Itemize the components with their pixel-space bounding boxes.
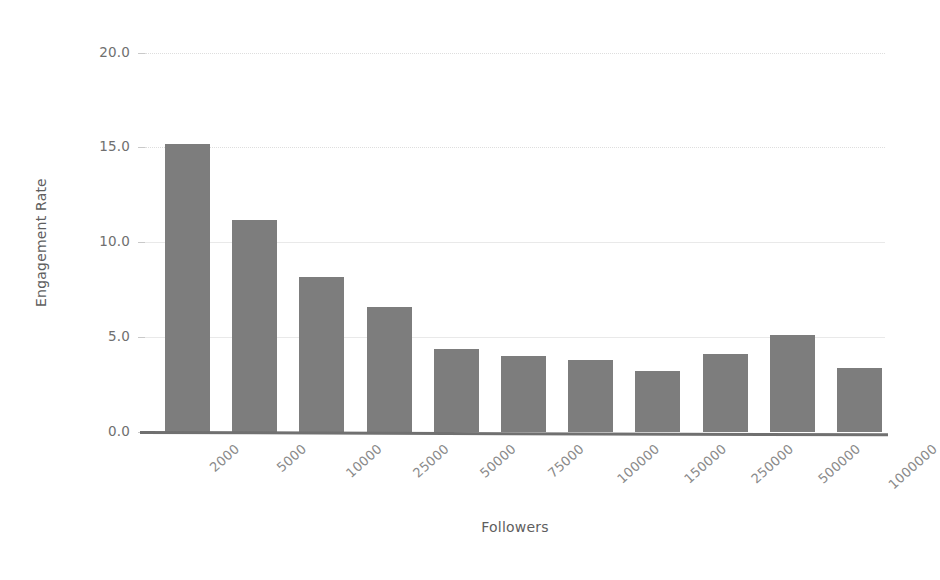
x-tick-label: 500000 [816, 441, 864, 487]
x-tick-label: 75000 [545, 441, 587, 481]
bar[interactable] [501, 356, 546, 432]
y-axis-title: Engagement Rate [33, 53, 53, 432]
bar[interactable] [367, 307, 412, 432]
bar[interactable] [434, 349, 479, 432]
x-axis-title: Followers [145, 519, 885, 535]
bar[interactable] [635, 371, 680, 432]
bar[interactable] [568, 360, 613, 432]
y-tick-label: 20.0 [70, 46, 130, 60]
bar[interactable] [165, 144, 210, 432]
x-tick-label: 250000 [748, 441, 796, 487]
x-tick-label: 100000 [614, 441, 662, 487]
plot-area [145, 53, 885, 432]
x-tick-label: 50000 [477, 441, 519, 481]
x-tick-label: 5000 [273, 441, 309, 475]
x-tick-label: 150000 [681, 441, 729, 487]
x-tick-label: 10000 [343, 441, 385, 481]
gridline-20 [145, 53, 885, 55]
bar[interactable] [837, 368, 882, 432]
gridline-15 [145, 147, 885, 149]
bar[interactable] [770, 335, 815, 432]
x-tick-label: 25000 [410, 441, 452, 481]
x-tick-label: 1000000 [885, 441, 940, 492]
y-tick-label: 15.0 [70, 140, 130, 154]
y-tick-label: 10.0 [70, 235, 130, 249]
y-tick-label: 0.0 [70, 425, 130, 439]
bar[interactable] [299, 277, 344, 432]
x-tick-label: 2000 [206, 441, 242, 475]
y-tick-label: 5.0 [70, 330, 130, 344]
bar[interactable] [232, 220, 277, 432]
bar[interactable] [703, 354, 748, 432]
